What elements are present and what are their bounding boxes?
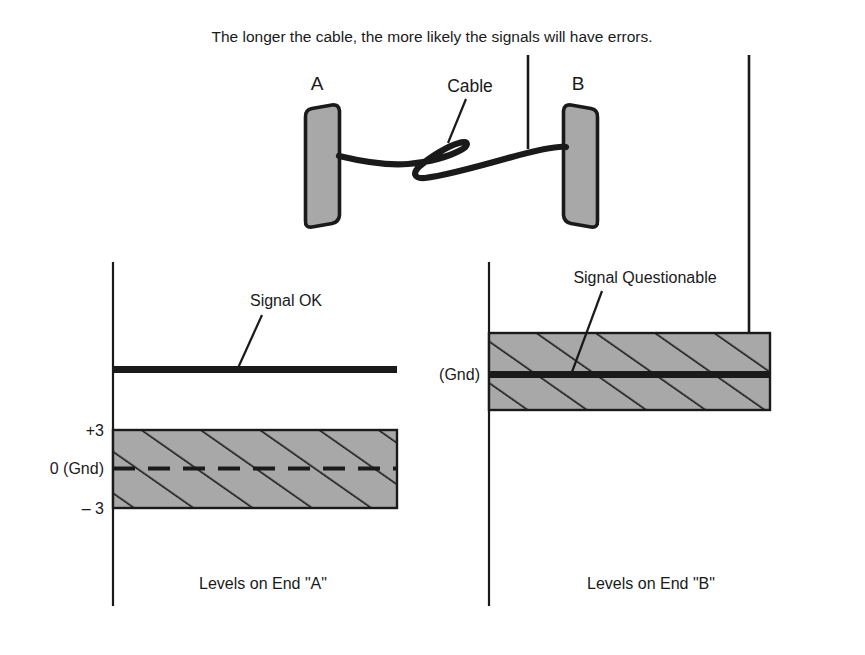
- connector-b-label: B: [572, 73, 585, 94]
- connector-b-body: [564, 105, 598, 227]
- right-chart-signal-annotation: Signal Questionable: [573, 269, 716, 286]
- figure-caption: The longer the cable, the more likely th…: [211, 28, 652, 45]
- right-chart-ground-label: (Gnd): [439, 366, 480, 383]
- figure-canvas: The longer the cable, the more likely th…: [0, 0, 865, 655]
- left-chart-tick-plus3: +3: [86, 422, 104, 439]
- cable-path: [339, 142, 566, 178]
- connector-a-label: A: [311, 73, 324, 94]
- left-chart-tick-ground: 0 (Gnd): [50, 460, 104, 477]
- left-chart-title: Levels on End "A": [199, 575, 327, 592]
- connector-a-body: [305, 105, 339, 227]
- cable-leader-line: [448, 99, 466, 143]
- cable-label: Cable: [447, 76, 493, 96]
- diagram-svg: The longer the cable, the more likely th…: [0, 0, 865, 655]
- left-chart-tick-minus3: – 3: [82, 500, 104, 517]
- right-chart-title: Levels on End "B": [587, 575, 715, 592]
- left-chart-signal-annotation: Signal OK: [250, 292, 322, 309]
- left-chart-annotation-leader: [238, 315, 262, 368]
